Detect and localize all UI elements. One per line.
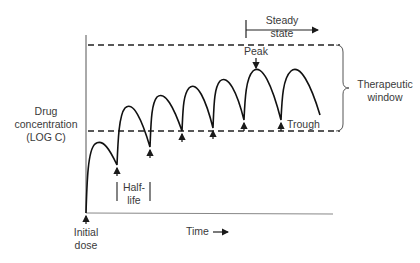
steady-state-line1: Steady [262,14,302,27]
therapeutic-line1: Therapeutic [352,78,418,91]
y-axis-label: Drug concentration (LOG C) [12,105,80,144]
steady-state-line2: state [262,27,302,40]
steady-state-label: Steady state [262,14,302,40]
initial-dose-label: Initial dose [66,226,106,252]
dose-arrows [86,123,281,224]
y-label-line2: concentration [12,118,80,131]
initial-dose-line1: Initial [66,226,106,239]
therapeutic-window-brace [336,45,349,131]
therapeutic-window-label: Therapeutic window [352,78,418,104]
y-label-line1: Drug [12,105,80,118]
therapeutic-line2: window [352,91,418,104]
half-life-line1: Half- [119,181,149,194]
half-life-line2: life [119,194,149,207]
peak-label: Peak [244,45,268,58]
trough-label: Trough [287,118,320,131]
initial-dose-line2: dose [66,239,106,252]
y-label-line3: (LOG C) [12,131,80,144]
time-label: Time [186,225,209,238]
half-life-label: Half- life [119,181,149,207]
x-axis [86,213,333,214]
